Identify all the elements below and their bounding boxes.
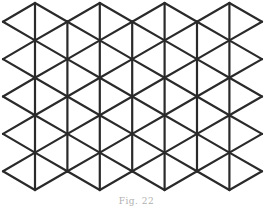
diagonal-line — [197, 3, 229, 22]
diagonal-line — [132, 3, 164, 22]
diagonal-line — [67, 97, 99, 116]
diagonal-line — [67, 78, 99, 97]
diagonal-line — [229, 40, 262, 59]
diagonal-line — [67, 3, 99, 22]
diagonal-line — [100, 59, 132, 78]
diagonal-line — [229, 97, 262, 116]
diagonal-line — [67, 59, 99, 78]
triangle-lattice-figure — [0, 0, 273, 195]
diagonal-line — [165, 134, 197, 153]
diagonal-line — [35, 97, 67, 116]
diagonal-line — [229, 3, 262, 22]
diagonal-line — [229, 171, 262, 190]
diagonal-line — [35, 78, 67, 97]
diagonal-line — [35, 153, 67, 172]
diagonal-line — [100, 78, 132, 97]
diagonal-line — [100, 3, 132, 22]
diagonal-line — [229, 134, 262, 153]
diagonal-line — [35, 22, 67, 41]
diagonal-line — [229, 59, 262, 78]
diagonal-line — [35, 115, 67, 134]
diagonal-line — [197, 171, 229, 190]
diagonal-line — [35, 3, 67, 22]
diagonal-line — [132, 97, 164, 116]
diagonal-line — [165, 22, 197, 41]
diagonal-line — [100, 22, 132, 41]
diagonal-line — [165, 40, 197, 59]
diagonal-line — [132, 134, 164, 153]
diagonal-line — [165, 153, 197, 172]
diagonal-line — [132, 153, 164, 172]
diagonal-line — [197, 78, 229, 97]
diagonal-line — [100, 153, 132, 172]
diagonal-line — [197, 153, 229, 172]
diagonal-line — [132, 171, 164, 190]
diagonal-line — [67, 115, 99, 134]
diagonal-line — [197, 97, 229, 116]
diagonal-line — [3, 97, 35, 116]
diagonal-line — [132, 78, 164, 97]
diagonal-line — [132, 22, 164, 41]
diagonal-line — [197, 40, 229, 59]
diagonal-line — [35, 171, 67, 190]
diagonal-line — [67, 153, 99, 172]
diagonal-line — [67, 40, 99, 59]
diagonal-line — [3, 78, 35, 97]
diagonal-line — [165, 59, 197, 78]
diagonal-line — [165, 97, 197, 116]
diagonal-line — [197, 115, 229, 134]
diagonal-line — [100, 40, 132, 59]
diagonal-line — [100, 97, 132, 116]
triangle-lattice-lines — [3, 3, 262, 190]
diagonal-line — [229, 78, 262, 97]
diagonal-line — [132, 59, 164, 78]
diagonal-line — [3, 115, 35, 134]
diagonal-line — [165, 171, 197, 190]
diagonal-line — [229, 153, 262, 172]
diagonal-line — [67, 134, 99, 153]
diagonal-line — [3, 134, 35, 153]
diagonal-line — [35, 134, 67, 153]
diagonal-line — [35, 59, 67, 78]
diagonal-line — [132, 40, 164, 59]
diagonal-line — [165, 3, 197, 22]
diagonal-line — [229, 22, 262, 41]
diagonal-line — [165, 115, 197, 134]
diagonal-line — [100, 134, 132, 153]
diagonal-line — [100, 115, 132, 134]
diagonal-line — [197, 134, 229, 153]
diagonal-line — [67, 171, 99, 190]
diagonal-line — [197, 22, 229, 41]
diagonal-line — [35, 40, 67, 59]
diagonal-line — [3, 40, 35, 59]
diagonal-line — [3, 22, 35, 41]
diagonal-line — [3, 3, 35, 22]
diagonal-line — [67, 22, 99, 41]
diagonal-line — [132, 115, 164, 134]
diagonal-line — [229, 115, 262, 134]
figure-caption: Fig. 22 — [0, 195, 273, 207]
diagonal-line — [3, 59, 35, 78]
diagonal-line — [100, 171, 132, 190]
diagonal-line — [3, 171, 35, 190]
diagonal-line — [165, 78, 197, 97]
diagonal-line — [197, 59, 229, 78]
diagonal-line — [3, 153, 35, 172]
